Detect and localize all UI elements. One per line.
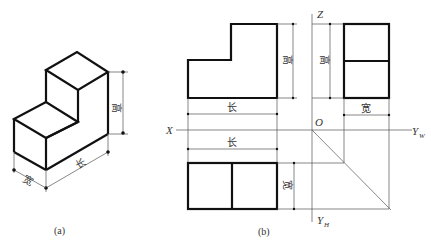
front-height-dimension: 高 bbox=[277, 23, 297, 99]
origin-label: O bbox=[315, 116, 323, 128]
top-width-dimension: 宽 bbox=[277, 162, 389, 210]
top-width-label: 宽 bbox=[282, 180, 294, 190]
caption-b: (b) bbox=[258, 226, 270, 238]
upper-top-face bbox=[46, 52, 108, 90]
bottom-left-edge bbox=[14, 152, 46, 170]
front-length-dimension: 长 bbox=[187, 98, 278, 163]
orthographic-views: X Z O Y W Y H 高 高 bbox=[165, 8, 426, 238]
top-length-dimension: 长 bbox=[187, 137, 278, 150]
height-dimension-a: 高 bbox=[108, 70, 128, 135]
side-width-label: 宽 bbox=[361, 102, 371, 114]
length-label: 长 bbox=[73, 156, 87, 171]
front-view bbox=[188, 24, 277, 98]
caption-a: (a) bbox=[54, 225, 65, 237]
z-axis-label: Z bbox=[317, 8, 324, 20]
side-height-label: 高 bbox=[319, 55, 331, 65]
yh-subscript: H bbox=[323, 221, 330, 229]
45-degree-line bbox=[312, 130, 391, 210]
projection-diagram: 高 长 宽 (a) X Z O Y W Y H bbox=[0, 0, 431, 245]
height-label: 高 bbox=[111, 103, 123, 113]
side-height-dimension: 高 bbox=[312, 23, 344, 99]
yw-subscript: W bbox=[419, 132, 426, 140]
step-top-face bbox=[14, 102, 78, 138]
side-width-dimension: 宽 bbox=[343, 98, 390, 209]
front-length-label: 长 bbox=[227, 102, 237, 113]
isometric-view: 高 长 宽 (a) bbox=[12, 52, 128, 237]
length-dimension-a: 长 bbox=[44, 134, 110, 192]
front-height-label: 高 bbox=[282, 55, 294, 65]
x-axis-label: X bbox=[165, 124, 174, 136]
top-length-label: 长 bbox=[227, 137, 237, 148]
step-front-edge bbox=[46, 122, 78, 138]
width-dimension-a: 宽 bbox=[12, 152, 46, 188]
